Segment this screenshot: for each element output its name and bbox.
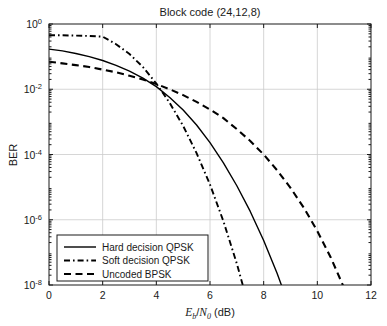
x-axis-label-eb-base: E [184, 306, 192, 318]
legend-item-label: Uncoded BPSK [102, 269, 172, 280]
x-tick-label: 6 [207, 289, 213, 301]
x-axis-label-unit: (dB) [211, 306, 235, 318]
legend[interactable]: Hard decision QPSKSoft decision QPSKUnco… [57, 235, 208, 281]
x-tick-label: 0 [46, 289, 52, 301]
x-tick-label: 10 [311, 289, 323, 301]
legend-item-label: Soft decision QPSK [102, 255, 190, 266]
ber-chart-svg: 024681012 10010-210-410-610-8 Block code… [0, 0, 387, 326]
x-tick-label: 4 [153, 289, 159, 301]
x-tick-label: 12 [365, 289, 377, 301]
chart-title: Block code (24,12,8) [160, 6, 261, 18]
legend-item-label: Hard decision QPSK [102, 242, 194, 253]
x-tick-label: 8 [261, 289, 267, 301]
y-axis-label: BER [7, 144, 19, 167]
chart-figure: 024681012 10010-210-410-610-8 Block code… [0, 0, 387, 326]
x-tick-label: 2 [100, 289, 106, 301]
